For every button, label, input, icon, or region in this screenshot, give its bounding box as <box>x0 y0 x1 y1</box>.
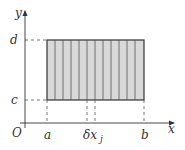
tick-label-j: j <box>98 134 103 144</box>
tick-label-b: b <box>141 128 149 142</box>
x-axis-label: x <box>168 122 175 136</box>
tick-label-delta-x: δx <box>83 128 97 142</box>
integration-region <box>47 40 144 100</box>
tick-label-a: a <box>44 128 51 142</box>
tick-label-c: c <box>11 93 18 107</box>
origin-label: O <box>12 126 22 140</box>
y-axis-label: y <box>14 6 22 20</box>
diagram-canvas: y x O d c a δx j b <box>0 0 185 150</box>
tick-label-d: d <box>10 33 18 47</box>
